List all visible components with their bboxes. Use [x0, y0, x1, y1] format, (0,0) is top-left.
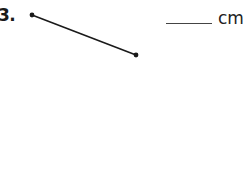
endpoint-start: [30, 13, 35, 18]
endpoint-end: [134, 53, 139, 58]
answer-blank[interactable]: [166, 23, 212, 24]
line-segment: [32, 15, 136, 55]
line-segment-figure: [0, 0, 246, 174]
unit-label: cm: [218, 8, 244, 28]
